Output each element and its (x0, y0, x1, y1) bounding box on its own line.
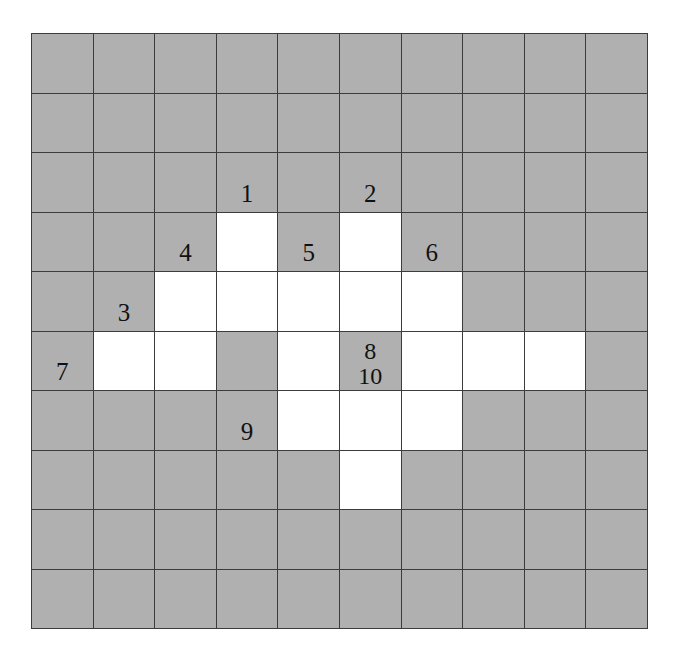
grid-cell-gray-r2-c7[interactable] (463, 153, 525, 213)
grid-cell-gray-r3-c1[interactable] (93, 212, 155, 272)
grid-cell-gray-r3-c2[interactable]: 4 (155, 212, 217, 272)
grid-cell-gray-r4-c0[interactable] (32, 272, 94, 332)
grid-cell-white-r4-c3[interactable] (216, 272, 278, 332)
grid-cell-gray-r0-c2[interactable] (155, 34, 217, 94)
grid-cell-white-r5-c7[interactable] (463, 331, 525, 391)
grid-cell-gray-r8-c0[interactable] (32, 510, 94, 570)
grid-cell-gray-r1-c0[interactable] (32, 93, 94, 153)
grid-cell-white-r5-c8[interactable] (524, 331, 586, 391)
grid-cell-gray-r0-c8[interactable] (524, 34, 586, 94)
grid-cell-white-r7-c5[interactable] (339, 450, 401, 510)
grid-cell-gray-r5-c0[interactable]: 7 (32, 331, 94, 391)
grid-cell-gray-r8-c2[interactable] (155, 510, 217, 570)
grid-cell-gray-r9-c8[interactable] (524, 569, 586, 629)
grid-cell-white-r3-c5[interactable] (339, 212, 401, 272)
grid-cell-gray-r6-c2[interactable] (155, 391, 217, 451)
grid-cell-gray-r8-c4[interactable] (278, 510, 340, 570)
grid-cell-gray-r6-c0[interactable] (32, 391, 94, 451)
grid-cell-gray-r2-c1[interactable] (93, 153, 155, 213)
grid-cell-gray-r3-c8[interactable] (524, 212, 586, 272)
grid-cell-gray-r1-c3[interactable] (216, 93, 278, 153)
grid-cell-white-r3-c3[interactable] (216, 212, 278, 272)
grid-cell-gray-r3-c9[interactable] (586, 212, 648, 272)
grid-cell-gray-r2-c3[interactable]: 1 (216, 153, 278, 213)
grid-cell-gray-r7-c4[interactable] (278, 450, 340, 510)
grid-cell-gray-r3-c0[interactable] (32, 212, 94, 272)
grid-cell-gray-r6-c3[interactable]: 9 (216, 391, 278, 451)
grid-cell-gray-r7-c7[interactable] (463, 450, 525, 510)
grid-cell-white-r6-c6[interactable] (401, 391, 463, 451)
grid-cell-gray-r1-c4[interactable] (278, 93, 340, 153)
grid-cell-gray-r7-c8[interactable] (524, 450, 586, 510)
grid-cell-gray-r4-c1[interactable]: 3 (93, 272, 155, 332)
grid-cell-gray-r9-c7[interactable] (463, 569, 525, 629)
grid-cell-gray-r0-c4[interactable] (278, 34, 340, 94)
grid-cell-gray-r6-c8[interactable] (524, 391, 586, 451)
grid-cell-gray-r5-c9[interactable] (586, 331, 648, 391)
grid-cell-gray-r6-c7[interactable] (463, 391, 525, 451)
grid-cell-gray-r1-c7[interactable] (463, 93, 525, 153)
grid-cell-gray-r2-c6[interactable] (401, 153, 463, 213)
grid-cell-gray-r8-c1[interactable] (93, 510, 155, 570)
grid-cell-white-r4-c5[interactable] (339, 272, 401, 332)
grid-cell-gray-r0-c5[interactable] (339, 34, 401, 94)
grid-cell-gray-r0-c6[interactable] (401, 34, 463, 94)
grid-cell-gray-r7-c3[interactable] (216, 450, 278, 510)
grid-cell-gray-r9-c6[interactable] (401, 569, 463, 629)
grid-cell-gray-r4-c9[interactable] (586, 272, 648, 332)
grid-cell-gray-r3-c6[interactable]: 6 (401, 212, 463, 272)
grid-cell-gray-r1-c8[interactable] (524, 93, 586, 153)
grid-cell-gray-r0-c1[interactable] (93, 34, 155, 94)
grid-cell-white-r6-c5[interactable] (339, 391, 401, 451)
grid-cell-white-r4-c6[interactable] (401, 272, 463, 332)
grid-cell-gray-r9-c9[interactable] (586, 569, 648, 629)
grid-cell-gray-r9-c2[interactable] (155, 569, 217, 629)
grid-cell-gray-r8-c7[interactable] (463, 510, 525, 570)
grid-cell-gray-r7-c9[interactable] (586, 450, 648, 510)
grid-cell-white-r5-c2[interactable] (155, 331, 217, 391)
grid-cell-gray-r4-c7[interactable] (463, 272, 525, 332)
grid-cell-gray-r6-c1[interactable] (93, 391, 155, 451)
grid-cell-white-r6-c4[interactable] (278, 391, 340, 451)
grid-cell-gray-r8-c6[interactable] (401, 510, 463, 570)
grid-cell-gray-r4-c8[interactable] (524, 272, 586, 332)
grid-cell-gray-r7-c0[interactable] (32, 450, 94, 510)
grid-cell-white-r4-c2[interactable] (155, 272, 217, 332)
grid-cell-gray-r2-c4[interactable] (278, 153, 340, 213)
grid-cell-gray-r9-c5[interactable] (339, 569, 401, 629)
grid-cell-gray-r8-c3[interactable] (216, 510, 278, 570)
grid-cell-gray-r3-c4[interactable]: 5 (278, 212, 340, 272)
grid-cell-gray-r9-c3[interactable] (216, 569, 278, 629)
grid-cell-white-r5-c1[interactable] (93, 331, 155, 391)
grid-cell-gray-r2-c0[interactable] (32, 153, 94, 213)
grid-cell-gray-r1-c5[interactable] (339, 93, 401, 153)
grid-cell-gray-r7-c2[interactable] (155, 450, 217, 510)
grid-cell-gray-r7-c1[interactable] (93, 450, 155, 510)
grid-cell-gray-r0-c0[interactable] (32, 34, 94, 94)
grid-cell-gray-r9-c1[interactable] (93, 569, 155, 629)
grid-cell-gray-r9-c0[interactable] (32, 569, 94, 629)
grid-cell-white-r5-c6[interactable] (401, 331, 463, 391)
grid-cell-gray-r8-c5[interactable] (339, 510, 401, 570)
grid-cell-white-r5-c4[interactable] (278, 331, 340, 391)
grid-cell-gray-r0-c7[interactable] (463, 34, 525, 94)
grid-cell-gray-r1-c9[interactable] (586, 93, 648, 153)
grid-cell-white-r4-c4[interactable] (278, 272, 340, 332)
grid-cell-gray-r5-c5[interactable]: 810 (339, 331, 401, 391)
grid-cell-gray-r3-c7[interactable] (463, 212, 525, 272)
grid-cell-gray-r0-c9[interactable] (586, 34, 648, 94)
grid-cell-gray-r2-c9[interactable] (586, 153, 648, 213)
grid-cell-gray-r7-c6[interactable] (401, 450, 463, 510)
grid-cell-gray-r1-c2[interactable] (155, 93, 217, 153)
grid-cell-gray-r8-c9[interactable] (586, 510, 648, 570)
grid-cell-gray-r2-c2[interactable] (155, 153, 217, 213)
grid-cell-gray-r1-c1[interactable] (93, 93, 155, 153)
grid-cell-gray-r2-c5[interactable]: 2 (339, 153, 401, 213)
grid-cell-gray-r8-c8[interactable] (524, 510, 586, 570)
grid-cell-gray-r9-c4[interactable] (278, 569, 340, 629)
grid-cell-gray-r0-c3[interactable] (216, 34, 278, 94)
grid-cell-gray-r1-c6[interactable] (401, 93, 463, 153)
grid-cell-gray-r5-c3[interactable] (216, 331, 278, 391)
grid-cell-gray-r2-c8[interactable] (524, 153, 586, 213)
grid-cell-gray-r6-c9[interactable] (586, 391, 648, 451)
